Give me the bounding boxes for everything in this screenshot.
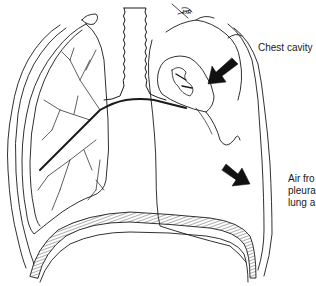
arrow-down-left-icon [208,58,238,84]
label-air-from-pleural: Air fro pleura lung a [288,173,316,209]
label-air-line-2: pleura [288,185,316,197]
left-apex [82,14,98,25]
label-chest-cavity: Chest cavity [258,42,312,54]
svg-text:DR: DR [181,8,192,16]
arrow-down-right-icon [222,164,250,186]
pneumothorax-diagram: DR Chest cavity Air fro pleura lung a [0,0,316,286]
label-air-line-3: lung a [288,197,316,209]
label-air-line-1: Air fro [288,173,316,185]
diaphragm [30,212,256,282]
trachea [104,8,166,100]
left-lung [22,24,109,234]
artist-signature: DR [172,4,192,18]
